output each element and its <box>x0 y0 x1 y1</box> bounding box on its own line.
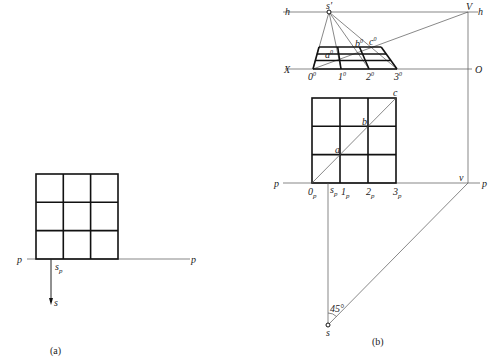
label-v: v <box>459 172 464 183</box>
label-b: b <box>362 116 367 127</box>
label-sp-a: sp <box>55 261 63 275</box>
label-0p: 0p <box>308 186 317 200</box>
label-a0: a0 <box>325 49 333 60</box>
plan-grid-a <box>36 174 118 259</box>
label-s-a: s <box>54 297 58 308</box>
caption-a: (a) <box>50 345 61 357</box>
figure-a: p p sp s (a) <box>16 174 196 357</box>
diagram-canvas: p p sp s (a) <box>0 0 495 361</box>
label-3p: 3p <box>392 186 402 200</box>
label-c: c <box>393 87 398 98</box>
label-2-0: 20 <box>366 71 374 82</box>
label-p-right-b: p <box>481 178 487 189</box>
label-a: a <box>335 144 340 155</box>
label-h-right: h <box>478 6 483 17</box>
label-s-prime: s′ <box>326 0 333 11</box>
label-p-left-a: p <box>16 254 22 265</box>
label-p-left-b: p <box>273 178 279 189</box>
label-1p: 1p <box>341 186 350 200</box>
label-3-0: 30 <box>393 71 402 82</box>
label-1-0: 10 <box>338 71 346 82</box>
caption-b: (b) <box>372 336 384 348</box>
label-2p: 2p <box>366 186 375 200</box>
label-angle-45: 45° <box>330 303 344 314</box>
label-p-right-a: p <box>190 254 196 265</box>
plan-grid-b <box>312 98 396 183</box>
forty-five-line <box>328 183 468 325</box>
label-sp-b: sp <box>330 184 338 198</box>
label-c0: c0 <box>369 36 376 47</box>
label-0-0: 00 <box>308 71 316 82</box>
label-O: O <box>475 64 482 75</box>
label-V: V <box>466 1 474 12</box>
label-s-b: s <box>326 327 330 338</box>
label-X: X <box>283 64 291 75</box>
arrow-down-icon <box>49 298 53 305</box>
label-h-left: h <box>285 6 290 17</box>
figure-b: h h s′ V X O a0 b0 c0 00 10 20 30 a b c … <box>273 0 487 348</box>
